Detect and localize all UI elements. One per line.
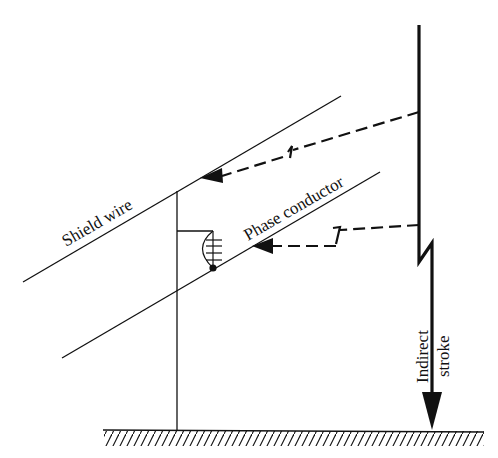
arrowhead-icon <box>200 168 223 183</box>
label-stroke: stroke <box>434 335 453 377</box>
diagram-canvas: Shield wire Phase conductor Indirect str… <box>0 0 498 458</box>
shield-wire-line <box>23 96 341 282</box>
induced-arrow-phase <box>252 225 419 254</box>
induced-arrow-shield <box>200 112 419 183</box>
label-indirect: Indirect <box>413 330 432 383</box>
insulator-icon <box>203 231 223 271</box>
label-phase-conductor: Phase conductor <box>241 172 348 245</box>
stroke-arrowhead-icon <box>422 392 442 430</box>
phase-conductor-line <box>62 172 380 358</box>
ground <box>103 430 484 446</box>
